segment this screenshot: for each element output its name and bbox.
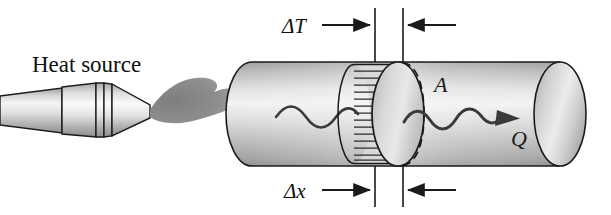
torch-collar-ring-1 [96, 83, 104, 137]
delta-t-label: ΔT [281, 14, 307, 38]
torch-barrel [62, 83, 96, 137]
torch-collar-ring-2 [104, 83, 112, 137]
rod-right-cap [534, 62, 586, 166]
heat-conduction-figure: Heat source ΔT Δx A Q [0, 0, 611, 215]
cross-section-disc [372, 62, 424, 166]
torch-handle [0, 88, 62, 133]
delta-x-label: Δx [283, 179, 306, 203]
diagram-canvas: Heat source ΔT Δx A Q [0, 0, 611, 215]
area-label: A [432, 72, 448, 97]
cross-section-face [372, 62, 424, 166]
heat-flow-label: Q [511, 126, 527, 151]
heat-source-label: Heat source [32, 52, 141, 77]
